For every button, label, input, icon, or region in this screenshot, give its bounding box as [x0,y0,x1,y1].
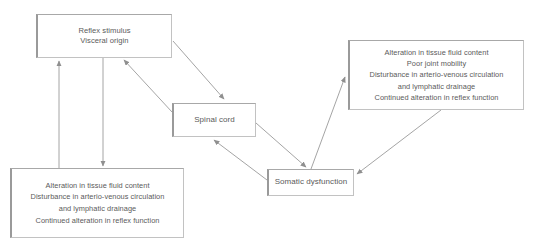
node-spinal-cord-label: Spinal cord [190,115,239,125]
node-somatic-dysfunction-label: Somatic dysfunction [271,177,352,187]
node-somatic-dysfunction: Somatic dysfunction [267,169,354,196]
edge-reflex-to-spinal [173,41,224,99]
node-effects-right: Alteration in tissue fluid content Poor … [348,40,524,110]
node-effects-left-label: Alteration in tissue fluid content Distu… [27,180,169,226]
edge-effects-right-to-somatic [357,110,441,174]
node-spinal-cord: Spinal cord [172,103,256,137]
node-effects-right-label: Alteration in tissue fluid content Poor … [366,47,508,103]
node-reflex-stimulus: Reflex stimulus Visceral origin [36,14,172,58]
edge-somatic-to-effects-right [311,77,345,169]
caption-strip [40,240,200,248]
edge-spinal-to-reflex [124,60,172,112]
node-reflex-stimulus-label: Reflex stimulus Visceral origin [74,26,134,47]
node-effects-left: Alteration in tissue fluid content Distu… [10,168,184,238]
diagram-canvas: Reflex stimulus Visceral origin Spinal c… [0,0,533,249]
edge-spinal-to-somatic [256,123,306,167]
edge-somatic-to-spinal [214,140,267,180]
